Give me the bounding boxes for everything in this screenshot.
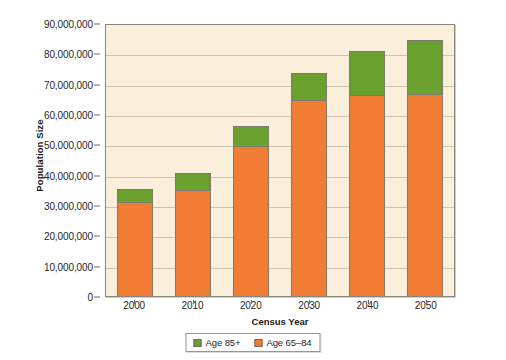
legend-item: Age 65–84: [254, 337, 311, 348]
bar-segment-age-85-plus: [233, 126, 269, 146]
x-tick-mark: [134, 300, 135, 304]
plot-area: [105, 24, 455, 297]
bar-segment-age-85-plus: [407, 40, 443, 95]
y-tick-label: 40,000,000: [44, 170, 93, 181]
bar-segment-age-65-84: [349, 95, 385, 296]
bar-segment-age-85-plus: [291, 73, 327, 100]
bar-segment-age-65-84: [175, 190, 211, 296]
stacked-bar-chart: Population Size 010,000,00020,000,00030,…: [0, 0, 506, 360]
bar-group-2010: [175, 25, 211, 296]
bar-segment-age-65-84: [117, 202, 153, 296]
bar-group-2020: [233, 25, 269, 296]
bar-group-2040: [349, 25, 385, 296]
y-tick-label: 60,000,000: [44, 110, 93, 121]
bar-group-2000: [117, 25, 153, 296]
y-tick-label: 80,000,000: [44, 49, 93, 60]
y-tick-mark: [94, 297, 100, 298]
x-axis-tick-labels: 200020102020203020402050: [105, 300, 455, 316]
legend-label: Age 85+: [205, 337, 240, 348]
bar-group-2050: [407, 25, 443, 296]
x-axis-title: Census Year: [105, 316, 455, 327]
bar-segment-age-85-plus: [117, 189, 153, 202]
y-tick-mark: [94, 206, 100, 207]
legend-item: Age 85+: [193, 337, 240, 348]
y-tick-mark: [94, 266, 100, 267]
y-tick-mark: [94, 175, 100, 176]
legend-swatch-icon: [193, 339, 201, 347]
y-tick-label: 70,000,000: [44, 79, 93, 90]
legend-swatch-icon: [254, 339, 262, 347]
bar-group-2030: [291, 25, 327, 296]
bars-layer: [106, 25, 454, 296]
y-tick-mark: [94, 24, 100, 25]
bar-segment-age-65-84: [407, 94, 443, 296]
x-tick-mark: [251, 300, 252, 304]
y-tick-mark: [94, 236, 100, 237]
x-tick-mark: [368, 300, 369, 304]
y-tick-mark: [94, 115, 100, 116]
y-tick-label: 30,000,000: [44, 201, 93, 212]
x-tick-mark: [309, 300, 310, 304]
x-tick-mark: [193, 300, 194, 304]
chart-legend: Age 85+Age 65–84: [185, 333, 320, 352]
bar-segment-age-85-plus: [349, 51, 385, 95]
bar-segment-age-65-84: [291, 100, 327, 296]
y-tick-mark: [94, 84, 100, 85]
x-tick-mark: [426, 300, 427, 304]
y-tick-mark: [94, 145, 100, 146]
y-tick-label: 90,000,000: [44, 19, 93, 30]
y-tick-label: 50,000,000: [44, 140, 93, 151]
legend-label: Age 65–84: [266, 337, 311, 348]
y-axis-tick-labels: 010,000,00020,000,00030,000,00040,000,00…: [22, 24, 100, 297]
y-tick-label: 20,000,000: [44, 231, 93, 242]
bar-segment-age-65-84: [233, 146, 269, 296]
y-tick-label: 10,000,000: [44, 261, 93, 272]
y-tick-label: 0: [88, 292, 93, 303]
y-tick-mark: [94, 54, 100, 55]
bar-segment-age-85-plus: [175, 173, 211, 190]
